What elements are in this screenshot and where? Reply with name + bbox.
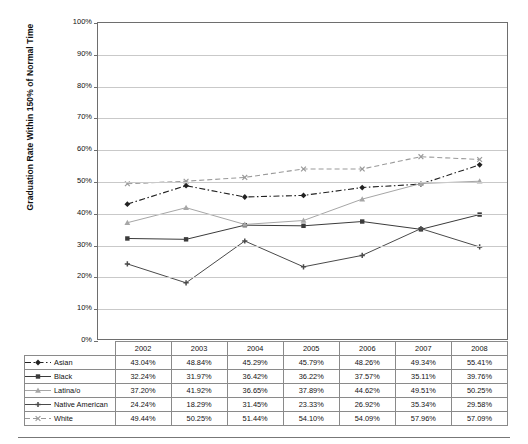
- y-axis-tickmark: [94, 55, 98, 56]
- table-cell-value: 35.11%: [395, 370, 451, 384]
- table-cell-value: 26.92%: [339, 398, 395, 412]
- gridline: [98, 246, 507, 247]
- data-point-marker: [359, 185, 365, 191]
- gridline: [98, 150, 507, 151]
- series-line: [127, 229, 479, 283]
- table-corner-cell: [25, 342, 116, 356]
- table-cell-value: 48.84%: [171, 356, 227, 370]
- gridline: [98, 214, 507, 215]
- legend-marker-icon: [25, 414, 51, 423]
- table-column-header: 2003: [171, 342, 227, 356]
- gridline: [98, 277, 507, 278]
- data-point-marker: [477, 162, 483, 168]
- data-point-marker: [301, 264, 306, 269]
- table-cell-value: 36.22%: [283, 370, 339, 384]
- legend-label: Latina/o: [54, 386, 80, 395]
- table-cell-value: 36.65%: [227, 384, 283, 398]
- y-axis-tick-label: 70%: [46, 113, 92, 121]
- legend-label: Black: [54, 372, 72, 381]
- y-axis-tickmark: [94, 309, 98, 310]
- table-cell-value: 35.34%: [395, 398, 451, 412]
- legend-label: Asian: [54, 358, 73, 367]
- legend-entry-native-american: Native American: [25, 398, 116, 412]
- y-axis-tickmark: [94, 277, 98, 278]
- table-cell-value: 37.20%: [115, 384, 171, 398]
- table-cell-value: 50.25%: [171, 412, 227, 426]
- data-point-marker: [360, 253, 365, 258]
- gridline: [98, 87, 507, 88]
- legend-marker-icon: [25, 400, 51, 409]
- table-column-header: 2002: [115, 342, 171, 356]
- table-cell-value: 32.24%: [115, 370, 171, 384]
- table-cell-value: 49.51%: [395, 384, 451, 398]
- table-cell-value: 45.79%: [283, 356, 339, 370]
- table-cell-value: 31.97%: [171, 370, 227, 384]
- table-cell-value: 23.33%: [283, 398, 339, 412]
- legend-label: Native American: [54, 400, 108, 409]
- table-column-header: 2008: [451, 342, 507, 356]
- table-cell-value: 54.10%: [283, 412, 339, 426]
- table-column-header: 2006: [339, 342, 395, 356]
- table-cell-value: 43.04%: [115, 356, 171, 370]
- table-cell-value: 18.29%: [171, 398, 227, 412]
- y-axis-tickmark: [94, 246, 98, 247]
- data-point-marker: [125, 236, 129, 240]
- table-row: White49.44%50.25%51.44%54.10%54.09%57.96…: [25, 412, 508, 426]
- table-cell-value: 24.24%: [115, 398, 171, 412]
- table-cell-value: 31.45%: [227, 398, 283, 412]
- table-cell-value: 48.26%: [339, 356, 395, 370]
- table-column-header: 2004: [227, 342, 283, 356]
- chart-plot-region: Graduation Rate Within 150% of Normal Ti…: [0, 0, 528, 348]
- y-axis-title: Graduation Rate Within 150% of Normal Ti…: [25, 17, 35, 217]
- y-axis-tickmark: [94, 150, 98, 151]
- data-table-region: 2002200320042005200620072008 Asian43.04%…: [24, 341, 508, 426]
- table-cell-value: 41.92%: [171, 384, 227, 398]
- y-axis-tick-label: 80%: [46, 82, 92, 90]
- y-axis-tick-label: 30%: [46, 241, 92, 249]
- data-point-marker: [360, 219, 364, 223]
- data-point-marker: [184, 237, 188, 241]
- gridline: [98, 309, 507, 310]
- table-cell-value: 29.58%: [451, 398, 507, 412]
- table-cell-value: 55.41%: [451, 356, 507, 370]
- table-cell-value: 37.89%: [283, 384, 339, 398]
- y-axis-tick-label: 50%: [46, 177, 92, 185]
- gridline: [98, 55, 507, 56]
- legend-entry-white: White: [25, 412, 116, 426]
- table-column-header: 2007: [395, 342, 451, 356]
- table-cell-value: 57.09%: [451, 412, 507, 426]
- gridline: [98, 182, 507, 183]
- y-axis-tickmark: [94, 23, 98, 24]
- plot-area: [97, 22, 508, 340]
- y-axis-tickmark: [94, 214, 98, 215]
- table-cell-value: 50.25%: [451, 384, 507, 398]
- y-axis-tick-label: 100%: [46, 18, 92, 26]
- table-cell-value: 45.29%: [227, 356, 283, 370]
- y-axis-tickmark: [94, 118, 98, 119]
- y-axis-tick-label: 90%: [46, 50, 92, 58]
- table-cell-value: 49.44%: [115, 412, 171, 426]
- table-header-row: 2002200320042005200620072008: [25, 342, 508, 356]
- bottom-divider: [18, 437, 510, 438]
- legend-marker-icon: [25, 372, 51, 381]
- legend-marker-icon: [25, 358, 51, 367]
- y-axis-tick-label: 10%: [46, 304, 92, 312]
- y-axis-tick-label: 20%: [46, 272, 92, 280]
- data-point-marker: [301, 224, 305, 228]
- table-cell-value: 57.96%: [395, 412, 451, 426]
- table-cell-value: 44.62%: [339, 384, 395, 398]
- table-cell-value: 51.44%: [227, 412, 283, 426]
- table-row: Native American24.24%18.29%31.45%23.33%2…: [25, 398, 508, 412]
- legend-label: White: [54, 414, 73, 423]
- table-header: 2002200320042005200620072008: [25, 342, 508, 356]
- table-row: Black32.24%31.97%36.42%36.22%37.57%35.11…: [25, 370, 508, 384]
- graduation-rate-figure: Graduation Rate Within 150% of Normal Ti…: [0, 0, 528, 444]
- series-line: [127, 157, 479, 184]
- table-cell-value: 49.34%: [395, 356, 451, 370]
- data-point-marker: [301, 192, 307, 198]
- y-axis-tick-label: 40%: [46, 209, 92, 217]
- gridline: [98, 118, 507, 119]
- y-axis-tick-labels: 100%90%80%70%60%50%40%30%20%10%0%: [44, 0, 92, 318]
- data-point-marker: [242, 194, 248, 200]
- y-axis-tickmark: [94, 182, 98, 183]
